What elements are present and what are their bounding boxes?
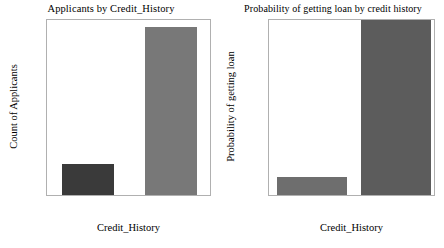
y-tick-mark — [268, 86, 269, 87]
bar-series — [47, 20, 210, 195]
y-axis-label: Probability of getting loan — [225, 18, 236, 195]
bar — [277, 177, 347, 195]
bar-series — [269, 20, 434, 195]
y-tick-mark — [268, 109, 269, 110]
y-tick-label: 0.8 — [268, 25, 269, 35]
y-tick-label: 400 — [46, 60, 47, 70]
x-tick-mark — [171, 195, 172, 196]
bar — [145, 27, 197, 195]
x-axis-label: Credit_History — [268, 222, 435, 234]
y-tick-label: 0.1 — [268, 180, 269, 190]
y-tick-mark — [46, 91, 47, 92]
chart-title: Probability of getting loan by credit hi… — [222, 2, 444, 15]
y-tick-label: 100 — [46, 166, 47, 176]
y-tick-label: 0.7 — [268, 47, 269, 57]
figure-canvas: Applicants by Credit_History Count of Ap… — [0, 0, 444, 248]
plot-area: 0.00.10.20.30.40.50.60.70.8 0.00.51.0 — [268, 19, 435, 196]
x-tick-mark — [354, 195, 355, 196]
y-tick-mark — [268, 64, 269, 65]
bar — [62, 164, 114, 196]
y-tick-mark — [268, 42, 269, 43]
y-tick-label: 0.5 — [268, 91, 269, 101]
chart-panel-probability: Probability of getting loan by credit hi… — [222, 0, 444, 248]
y-axis-label: Count of Applicants — [8, 18, 19, 195]
y-tick-label: 300 — [46, 96, 47, 106]
x-tick-mark — [396, 195, 397, 196]
x-axis-label: Credit_History — [46, 222, 211, 234]
x-tick-mark — [88, 195, 89, 196]
y-tick-label: 0.6 — [268, 69, 269, 79]
y-tick-mark — [268, 175, 269, 176]
plot-area: 0100200300400 0.00.1 — [46, 19, 211, 196]
x-tick-mark — [312, 195, 313, 196]
bar — [361, 19, 431, 195]
chart-panel-applicants: Applicants by Credit_History Count of Ap… — [0, 0, 222, 248]
y-tick-label: 200 — [46, 131, 47, 141]
y-tick-mark — [268, 20, 269, 21]
y-tick-label: 0.3 — [268, 135, 269, 145]
chart-title: Applicants by Credit_History — [0, 2, 222, 15]
y-tick-mark — [46, 126, 47, 127]
y-tick-label: 0.4 — [268, 113, 269, 123]
y-tick-label: 0.2 — [268, 158, 269, 168]
y-tick-mark — [268, 131, 269, 132]
y-tick-mark — [268, 153, 269, 154]
y-tick-mark — [46, 55, 47, 56]
y-tick-mark — [46, 162, 47, 163]
